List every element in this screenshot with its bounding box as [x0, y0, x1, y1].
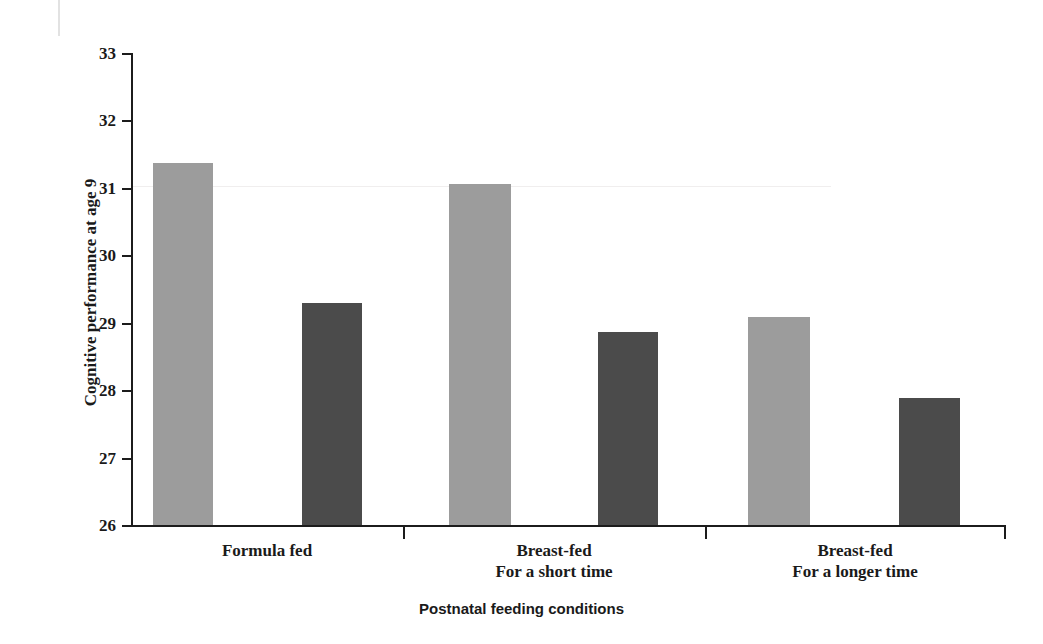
- y-axis-tick: [122, 458, 131, 460]
- y-axis-tick: [122, 120, 131, 122]
- x-axis-title: Postnatal feeding conditions: [0, 600, 1043, 618]
- y-axis-tick: [122, 53, 131, 55]
- bar-formula-fed-light: [153, 163, 213, 525]
- bar-breastfed-longer-light: [748, 317, 810, 525]
- y-axis-tick-label: 33: [76, 45, 116, 62]
- scan-artifact: [58, 0, 60, 36]
- y-axis-tick: [122, 323, 131, 325]
- x-axis-group-label-formula-fed: Formula fed: [131, 540, 403, 561]
- x-group-label-line2: For a short time: [403, 561, 705, 582]
- x-group-label-line1: Breast-fed: [817, 541, 892, 560]
- y-axis-tick: [122, 188, 131, 190]
- x-group-label-line1: Breast-fed: [516, 541, 591, 560]
- bar-breastfed-longer-dark: [899, 398, 960, 525]
- y-axis-tick-label: 26: [76, 517, 116, 534]
- x-axis-end-tick: [1004, 527, 1006, 539]
- x-axis-line: [131, 525, 1006, 527]
- y-axis-title: Cognitive performance at age 9: [82, 83, 99, 503]
- x-axis-group-separator: [403, 527, 405, 539]
- x-group-label-line1: Formula fed: [222, 541, 312, 560]
- y-axis-line: [131, 53, 133, 527]
- x-group-label-line2: For a longer time: [705, 561, 1005, 582]
- y-axis-tick: [122, 525, 131, 527]
- x-axis-group-separator: [705, 527, 707, 539]
- y-axis-tick: [122, 390, 131, 392]
- bar-chart-figure: 33 32 31 30 29 28 27 26 Cognitive perfor…: [0, 0, 1043, 644]
- y-axis-tick: [122, 255, 131, 257]
- bar-formula-fed-dark: [302, 303, 362, 525]
- bar-breastfed-short-light: [449, 184, 511, 525]
- x-axis-group-label-breastfed-short: Breast-fed For a short time: [403, 540, 705, 582]
- bar-breastfed-short-dark: [598, 332, 658, 525]
- x-axis-group-label-breastfed-longer: Breast-fed For a longer time: [705, 540, 1005, 582]
